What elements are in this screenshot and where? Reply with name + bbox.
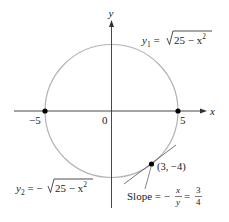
svg-text:y2 = −: y2 = − <box>15 182 43 197</box>
y-axis-label: y <box>108 7 114 19</box>
svg-text:=: = <box>184 190 190 202</box>
svg-text:25 − x2: 25 − x2 <box>174 32 206 46</box>
svg-text:Slope = −: Slope = − <box>127 190 170 202</box>
slope-label: Slope = − x y = 3 4 <box>127 185 202 207</box>
x-axis-label: x <box>209 105 215 117</box>
svg-text:4: 4 <box>196 197 201 207</box>
slope-leader-line <box>145 167 151 189</box>
tick-label-neg5: −5 <box>29 114 41 126</box>
tick-label-5: 5 <box>180 114 186 126</box>
circle-implicit-differentiation-diagram: x y −5 0 5 (3, −4) y1 = 25 − x2 y2 = − 2… <box>0 0 229 222</box>
origin-label: 0 <box>102 114 108 126</box>
svg-text:y: y <box>175 197 180 207</box>
equation-upper: y1 = 25 − x2 <box>141 31 212 49</box>
point-3-neg4 <box>149 161 154 166</box>
svg-text:x: x <box>175 185 180 195</box>
y-axis-arrow-icon <box>109 20 114 27</box>
point-neg5-0 <box>42 108 47 113</box>
point-5-0 <box>175 108 180 113</box>
point-3-neg4-label: (3, −4) <box>157 161 186 173</box>
svg-text:y1 =: y1 = <box>141 34 160 49</box>
equation-lower: y2 = − 25 − x2 <box>15 179 93 197</box>
x-axis-arrow-icon <box>200 109 207 114</box>
svg-text:25 − x2: 25 − x2 <box>55 180 87 194</box>
svg-text:3: 3 <box>196 185 201 195</box>
